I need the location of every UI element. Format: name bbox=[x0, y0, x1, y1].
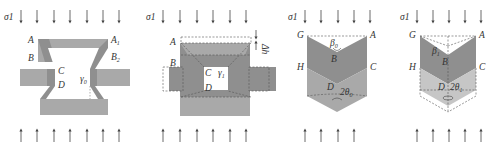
label-C: C bbox=[58, 66, 65, 76]
label-D: D bbox=[204, 83, 212, 93]
label-H: H bbox=[296, 62, 305, 72]
label-B: B bbox=[28, 53, 34, 63]
label-C: C bbox=[479, 62, 486, 72]
stress-label: σ1 bbox=[146, 12, 155, 22]
top-arrows bbox=[417, 10, 481, 22]
label-B: B bbox=[442, 57, 448, 67]
panel-b: σ1 bbox=[146, 10, 276, 142]
bottom-arrows bbox=[305, 130, 354, 142]
displacement-arrow: Δh bbox=[256, 30, 270, 55]
panel-a: σ1 A B C D A1 bbox=[4, 10, 130, 142]
svg-text:Δh: Δh bbox=[260, 43, 270, 55]
label-G: G bbox=[409, 30, 416, 40]
label-A1: A1 bbox=[110, 35, 120, 46]
bottom-arrows bbox=[417, 130, 481, 142]
label-A: A bbox=[27, 35, 34, 45]
label-B: B bbox=[170, 58, 176, 68]
label-G: G bbox=[297, 30, 304, 40]
bottom-arrows bbox=[163, 130, 246, 142]
label-B: B bbox=[331, 54, 337, 64]
top-arrows bbox=[305, 10, 370, 22]
chevron-cell-compressed bbox=[420, 36, 476, 112]
label-B2: B2 bbox=[111, 52, 120, 63]
label-A: A bbox=[169, 37, 176, 47]
bottom-arrows bbox=[21, 130, 119, 142]
top-arrows bbox=[21, 10, 119, 22]
label-C: C bbox=[370, 62, 377, 72]
deformation-diagram: σ1 A B C D A1 bbox=[0, 0, 502, 152]
honeycomb-cell-initial bbox=[20, 39, 130, 115]
label-D: D bbox=[57, 80, 65, 90]
label-D: D bbox=[326, 82, 334, 92]
label-beta1: β1 bbox=[431, 46, 440, 57]
stress-label: σ1 bbox=[288, 12, 297, 22]
panel-c: σ1 G A H C B D β0 2θ0 bbox=[288, 10, 377, 142]
stress-label: σ1 bbox=[400, 12, 409, 22]
stress-label: σ1 bbox=[4, 12, 13, 22]
top-arrows bbox=[163, 10, 246, 22]
label-beta0: β0 bbox=[329, 38, 338, 49]
label-C: C bbox=[205, 68, 212, 78]
panel-d: σ1 G A H C bbox=[400, 10, 486, 142]
label-A: A bbox=[369, 30, 376, 40]
label-A: A bbox=[478, 30, 485, 40]
label-H: H bbox=[408, 62, 417, 72]
label-D: D bbox=[437, 82, 445, 92]
